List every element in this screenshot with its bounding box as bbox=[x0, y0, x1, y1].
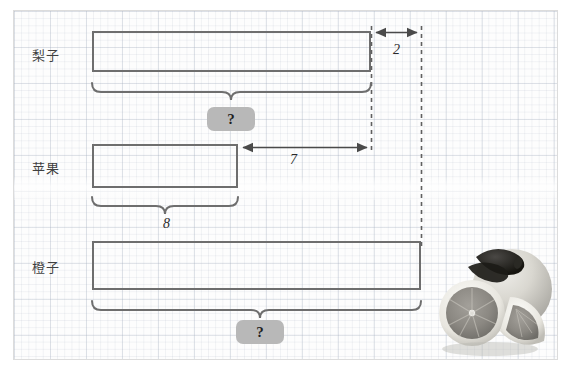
value-label-2: 2 bbox=[393, 42, 400, 58]
value-label-7: 7 bbox=[290, 152, 297, 168]
citrus-photo bbox=[432, 237, 558, 360]
bar-pear bbox=[92, 31, 371, 72]
bar-orange bbox=[92, 241, 421, 290]
unknown-badge-pear[interactable]: ? bbox=[207, 107, 255, 131]
bar-apple bbox=[92, 144, 238, 188]
diagram-canvas: 梨子 苹果 橙子 2 7 8 ? ? bbox=[0, 0, 572, 375]
row-label-orange: 橙子 bbox=[32, 257, 60, 276]
row-label-apple: 苹果 bbox=[32, 158, 60, 177]
row-label-pear: 梨子 bbox=[32, 45, 60, 64]
unknown-badge-orange[interactable]: ? bbox=[236, 320, 284, 344]
value-label-8: 8 bbox=[163, 216, 170, 232]
